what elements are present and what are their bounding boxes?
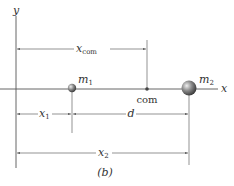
m1-label: m1 — [78, 73, 93, 87]
m2-label: m2 — [199, 73, 214, 87]
figure-caption: (b) — [97, 166, 113, 179]
xcom-label: xcom — [76, 42, 97, 56]
com-label: com — [136, 94, 158, 105]
y-axis-label: y — [12, 4, 20, 17]
com-point — [145, 87, 149, 91]
com-diagram: y x xcom com m1 m2 x1 d x2 (b) — [0, 0, 234, 186]
x1-label: x1 — [39, 107, 50, 121]
m1-ball — [68, 84, 76, 92]
d-label: d — [127, 107, 134, 120]
m2-ball — [182, 81, 197, 96]
x2-label: x2 — [98, 146, 109, 160]
x-axis-label: x — [221, 82, 228, 95]
